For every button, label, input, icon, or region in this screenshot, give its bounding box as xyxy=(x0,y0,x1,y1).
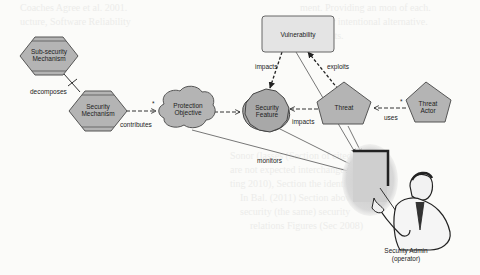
svg-text:Actor: Actor xyxy=(420,107,436,114)
node-protection-objective[interactable]: Protection Objective xyxy=(159,86,215,128)
node-security-mechanism[interactable]: Security Mechanism xyxy=(69,91,127,131)
node-security-admin[interactable]: Security Admin (operator) xyxy=(342,144,450,263)
edge-label-impacts-threat: impacts xyxy=(292,118,315,126)
edge-label-decomposes: decomposes xyxy=(30,88,68,96)
svg-text:Threat: Threat xyxy=(419,100,438,107)
edge-impacts-threat: impacts xyxy=(290,109,318,126)
svg-text:Security Admin: Security Admin xyxy=(384,247,428,255)
svg-text:Protection: Protection xyxy=(173,102,203,109)
security-concept-diagram: decomposes * contributes impacts exploit… xyxy=(0,0,480,275)
node-sub-security-mechanism[interactable]: Sub-security Mechanism xyxy=(20,37,78,75)
edge-decomposes: decomposes xyxy=(30,74,80,96)
svg-text:Mechanism: Mechanism xyxy=(81,110,114,117)
edge-contributes: * contributes xyxy=(120,100,156,128)
svg-text:Objective: Objective xyxy=(174,109,201,117)
edge-uses: * uses xyxy=(374,98,406,121)
node-threat-actor[interactable]: Threat Actor xyxy=(406,82,451,122)
svg-text:Mechanism: Mechanism xyxy=(32,55,65,62)
svg-text:Vulnerability: Vulnerability xyxy=(280,31,316,39)
svg-text:*: * xyxy=(400,98,403,105)
edge-label-exploits: exploits xyxy=(327,63,350,71)
node-vulnerability[interactable]: Vulnerability xyxy=(262,16,334,52)
svg-text:Feature: Feature xyxy=(256,111,279,118)
edge-label-impacts: impacts xyxy=(255,63,278,71)
edge-label-monitors: monitors xyxy=(257,157,283,164)
edge-impacts-vulnerability: impacts xyxy=(255,52,282,88)
node-threat[interactable]: Threat xyxy=(317,82,371,124)
node-security-feature[interactable]: Security Feature xyxy=(243,89,290,132)
svg-text:*: * xyxy=(152,100,155,107)
svg-text:(operator): (operator) xyxy=(392,255,421,263)
edge-label-uses: uses xyxy=(384,114,398,121)
svg-text:Threat: Threat xyxy=(335,104,354,111)
edge-label-contributes: contributes xyxy=(120,121,153,128)
